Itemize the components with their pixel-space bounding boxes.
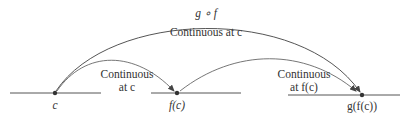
point-fc-dot xyxy=(175,91,179,95)
point-gfc-label: g(f(c)) xyxy=(347,101,377,113)
arc-g-caption-line1: Continuous xyxy=(277,69,330,81)
point-c-label: c xyxy=(52,100,57,112)
composite-label: g ∘ f xyxy=(195,8,217,20)
arc-f-caption-line1: Continuous xyxy=(100,69,153,81)
point-gfc-dot xyxy=(360,93,364,97)
composition-diagram: g ∘ f Continuous at c Continuous at c Co… xyxy=(0,0,411,116)
arc-f-caption-line2: at c xyxy=(119,82,135,94)
point-fc-label: f(c) xyxy=(169,100,185,112)
arc-g-caption-line2: at f(c) xyxy=(290,82,318,94)
point-c-dot xyxy=(53,91,57,95)
composite-caption: Continuous at c xyxy=(170,27,242,39)
